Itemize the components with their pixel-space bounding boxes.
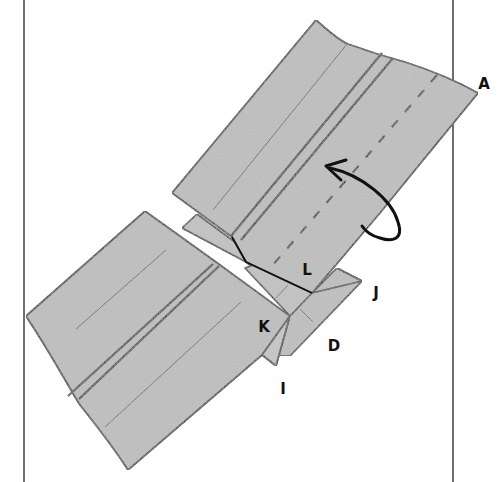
label-i: I bbox=[280, 382, 286, 397]
diagram-canvas bbox=[0, 0, 500, 482]
label-k: K bbox=[258, 320, 270, 335]
origami-diagram: A J L K D I bbox=[0, 0, 500, 482]
label-a: A bbox=[478, 77, 490, 92]
upper-strip bbox=[172, 20, 478, 293]
label-j: J bbox=[373, 286, 379, 301]
label-d: D bbox=[328, 339, 340, 354]
label-l: L bbox=[302, 263, 312, 278]
